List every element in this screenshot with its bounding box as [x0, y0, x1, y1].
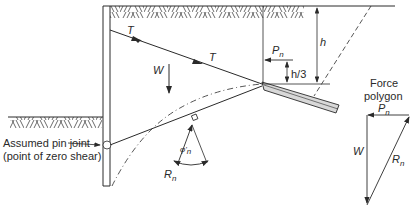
anchor-force-label: Pn [272, 44, 284, 59]
polygon-reaction-label: Rn [392, 153, 405, 168]
pin-joint-label-line2: (point of zero shear) [3, 150, 101, 162]
reaction-label: Rn [164, 168, 177, 183]
failure-plane-line [110, 86, 262, 145]
force-polygon-title-line2: polygon [364, 90, 403, 102]
force-polygon-title-line1: Force [370, 77, 398, 89]
active-wedge-line [314, 6, 371, 96]
reaction-force [174, 114, 208, 165]
pin-joint-label-line1: Assumed pin joint [3, 137, 90, 149]
friction-angle-label: φ'n [180, 145, 192, 156]
tie-rod [110, 30, 262, 84]
weight-label: W [153, 64, 165, 76]
pin-joint-icon [103, 141, 111, 149]
tie-label-lower: T [209, 51, 217, 63]
polygon-weight-label: W [353, 145, 365, 157]
height-label: h [320, 36, 326, 48]
sheet-pile-wall [103, 6, 111, 186]
dredge-ground [8, 117, 103, 128]
retained-ground [103, 6, 395, 18]
anchored-wall-diagram: T T W h h/3 Pn φ'n Rn Assumed pin joint … [0, 0, 411, 210]
third-height-label: h/3 [291, 68, 306, 80]
anchor-block [262, 82, 339, 113]
tie-label-upper: T [127, 24, 135, 36]
